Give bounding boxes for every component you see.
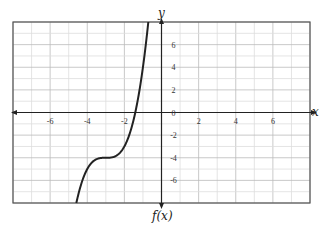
x-tick-label: 6 bbox=[271, 117, 275, 126]
y-tick-label: 6 bbox=[172, 41, 176, 50]
function-graph: -6-4-22466420-2-4-6 x y f(x) bbox=[0, 0, 329, 227]
y-axis-label: y bbox=[157, 6, 165, 20]
y-tick-label: 2 bbox=[172, 86, 176, 95]
y-tick-label: -6 bbox=[170, 176, 177, 185]
x-tick-label: -2 bbox=[121, 117, 128, 126]
y-tick-label: 4 bbox=[172, 63, 176, 72]
chart-caption: f(x) bbox=[151, 209, 173, 223]
x-tick-label: -4 bbox=[84, 117, 91, 126]
x-axis-label: x bbox=[312, 105, 319, 119]
y-tick-label: -2 bbox=[170, 131, 177, 140]
x-axis-arrow-left-icon bbox=[11, 110, 17, 115]
x-tick-label: -6 bbox=[47, 117, 54, 126]
x-tick-label: 4 bbox=[234, 117, 238, 126]
x-tick-label: 2 bbox=[197, 117, 201, 126]
y-tick-label: 0 bbox=[172, 109, 176, 118]
y-tick-label: -4 bbox=[170, 154, 177, 163]
